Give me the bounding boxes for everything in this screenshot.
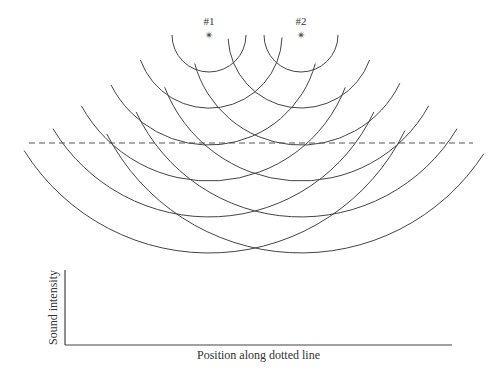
wavefront-arc [195, 64, 400, 146]
y-axis-label: Sound intensity [46, 270, 60, 345]
source-label: #1 [204, 15, 215, 27]
wavefront-arc [140, 38, 282, 109]
x-axis-label: Position along dotted line [197, 348, 320, 362]
diagram-svg: #1✴#2✴ Sound intensity Position along do… [0, 0, 498, 374]
wavefronts [24, 35, 484, 253]
wavefront-arc [136, 112, 457, 217]
wavefront-arc [111, 64, 315, 146]
interference-diagram: #1✴#2✴ Sound intensity Position along do… [0, 0, 498, 374]
sources: #1✴#2✴ [204, 15, 307, 42]
intensity-graph: Sound intensity Position along dotted li… [46, 270, 452, 362]
wavefront-arc [53, 112, 374, 217]
wavefront-arc [24, 131, 405, 253]
sound-source-icon: ✴ [296, 29, 305, 42]
source-label: #2 [296, 15, 307, 27]
wavefront-arc [228, 39, 370, 108]
sound-source-icon: ✴ [204, 29, 213, 42]
